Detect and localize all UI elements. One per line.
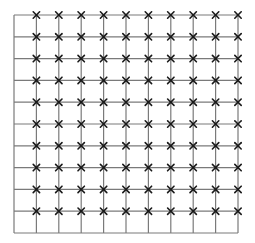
x-markers	[33, 12, 241, 215]
lattice-diagram	[0, 0, 255, 243]
